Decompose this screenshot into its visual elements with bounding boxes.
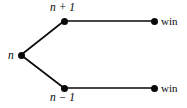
node-label-bottom-terminal: win <box>161 83 178 94</box>
edges-layer <box>0 0 187 108</box>
node-label-root: n <box>8 50 14 62</box>
node-label-top-branch: n + 1 <box>50 2 75 14</box>
edge-root-to-top-branch <box>21 21 64 55</box>
tree-diagram: n n + 1 n − 1 win win <box>0 0 187 108</box>
node-top-terminal <box>151 18 158 25</box>
edge-root-to-bottom-branch <box>21 55 64 88</box>
node-label-top-terminal: win <box>161 16 178 27</box>
node-root <box>18 52 25 59</box>
node-top-branch <box>61 18 68 25</box>
node-label-bottom-branch: n − 1 <box>50 92 75 104</box>
node-bottom-terminal <box>151 85 158 92</box>
